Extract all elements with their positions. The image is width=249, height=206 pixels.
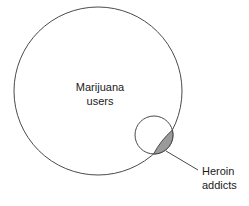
venn-diagram-canvas: Marijuana users Heroin addicts	[0, 0, 249, 206]
set-label-marijuana-users-line1: Marijuana	[76, 81, 125, 93]
set-label-heroin-addicts-line2: addicts	[202, 179, 237, 191]
venn-diagram: Marijuana users Heroin addicts	[0, 0, 249, 206]
set-label-heroin-addicts-line1: Heroin	[202, 165, 234, 177]
leader-line-heroin-addicts	[166, 151, 198, 170]
set-label-marijuana-users-line2: users	[87, 95, 114, 107]
